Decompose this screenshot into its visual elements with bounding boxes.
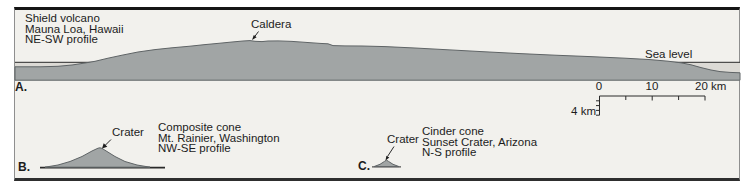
composite-cone-profile bbox=[45, 148, 150, 167]
scale-tick-20km: 20 km bbox=[695, 81, 726, 92]
panel-a-letter: A. bbox=[15, 82, 27, 93]
panel-a-caption: Shield volcano Mauna Loa, Hawaii NE-SW p… bbox=[25, 13, 123, 45]
panel-b-letter: B. bbox=[18, 162, 30, 173]
sea-level-label: Sea level bbox=[645, 49, 692, 60]
panel-b-caption: Composite cone Mt. Rainier, Washington N… bbox=[158, 122, 280, 154]
crater-c-label: Crater bbox=[387, 134, 419, 145]
caldera-label: Caldera bbox=[251, 19, 291, 30]
crater-c-arrow-line bbox=[388, 147, 395, 157]
volcano-profiles-figure: Shield volcano Mauna Loa, Hawaii NE-SW p… bbox=[0, 0, 747, 194]
scale-tick-0: 0 bbox=[596, 81, 602, 92]
panel-a-caption-line3: NE-SW profile bbox=[25, 34, 123, 45]
panel-a-caption-line1: Shield volcano bbox=[25, 13, 123, 24]
panel-c-letter: C. bbox=[358, 161, 370, 172]
panel-b-caption-line1: Composite cone bbox=[158, 122, 280, 133]
crater-c-arrow-head bbox=[386, 156, 390, 161]
shield-volcano-profile bbox=[15, 41, 740, 81]
scale-vertical-label: 4 km bbox=[556, 106, 596, 117]
panel-c-caption: Cinder cone Sunset Crater, Arizona N-S p… bbox=[422, 126, 537, 158]
scale-tick-10: 10 bbox=[646, 81, 659, 92]
crater-b-label: Crater bbox=[112, 127, 144, 138]
panel-c-caption-line1: Cinder cone bbox=[422, 126, 537, 137]
scale-bar bbox=[596, 96, 705, 115]
cinder-cone-profile bbox=[374, 160, 399, 167]
panel-c-caption-line3: N-S profile bbox=[422, 147, 537, 158]
panel-b-caption-line3: NW-SE profile bbox=[158, 143, 280, 154]
